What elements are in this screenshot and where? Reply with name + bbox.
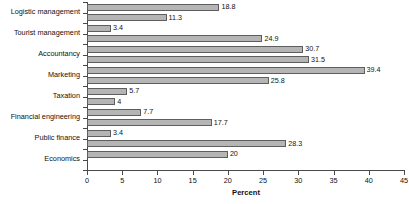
y-axis-tick bbox=[83, 13, 87, 14]
x-axis-tick-label: 20 bbox=[216, 176, 240, 185]
x-axis-tick bbox=[404, 171, 405, 175]
x-axis-tick bbox=[298, 171, 299, 175]
bar bbox=[87, 56, 309, 63]
x-axis-tick-label: 40 bbox=[357, 176, 381, 185]
y-axis-tick bbox=[83, 97, 87, 98]
bar-value-label: 5.7 bbox=[129, 87, 139, 95]
y-axis-tick bbox=[83, 128, 87, 129]
x-axis-tick bbox=[369, 171, 370, 175]
bar bbox=[87, 151, 228, 158]
bar bbox=[87, 88, 127, 95]
category-label: Financial engineering bbox=[11, 113, 80, 121]
y-axis-tick bbox=[83, 23, 87, 24]
x-axis-tick-label: 25 bbox=[251, 176, 275, 185]
bar bbox=[87, 130, 111, 137]
bar-value-label: 31.5 bbox=[311, 56, 325, 64]
x-axis-tick-label: 15 bbox=[181, 176, 205, 185]
x-axis-title: Percent bbox=[87, 188, 405, 197]
y-axis-tick bbox=[83, 55, 87, 56]
bar bbox=[87, 140, 286, 147]
x-axis-tick bbox=[122, 171, 123, 175]
bar-value-label: 20 bbox=[230, 150, 238, 158]
y-axis-tick bbox=[83, 160, 87, 161]
bar-chart: Logistic managementTourist managementAcc… bbox=[0, 0, 409, 204]
bar-value-label: 25.8 bbox=[271, 77, 285, 85]
bar bbox=[87, 4, 219, 11]
bar bbox=[87, 25, 111, 32]
x-axis-tick bbox=[263, 171, 264, 175]
y-axis-tick bbox=[83, 44, 87, 45]
bar bbox=[87, 119, 212, 126]
bar-value-label: 28.3 bbox=[288, 140, 302, 148]
bar bbox=[87, 46, 303, 53]
bar-value-label: 3.4 bbox=[113, 129, 123, 137]
category-label: Taxation bbox=[53, 92, 80, 100]
bar-value-label: 39.4 bbox=[367, 66, 381, 74]
x-axis-tick bbox=[157, 171, 158, 175]
x-axis-tick-label: 45 bbox=[392, 176, 409, 185]
category-label: Logistic management bbox=[11, 8, 80, 16]
category-axis-labels: Logistic managementTourist managementAcc… bbox=[0, 2, 84, 170]
y-axis-tick bbox=[83, 76, 87, 77]
bar bbox=[87, 77, 269, 84]
bar-value-label: 17.7 bbox=[214, 119, 228, 127]
bar-value-label: 11.3 bbox=[169, 14, 182, 22]
bar-value-label: 24.9 bbox=[264, 35, 278, 43]
x-axis-tick-label: 0 bbox=[75, 176, 99, 185]
bar bbox=[87, 14, 167, 21]
bar bbox=[87, 35, 262, 42]
category-label: Economics bbox=[44, 155, 80, 163]
bar-value-label: 7.7 bbox=[143, 108, 153, 116]
bar-value-label: 4 bbox=[117, 98, 121, 106]
y-axis-tick bbox=[83, 2, 87, 3]
y-axis-tick bbox=[83, 139, 87, 140]
x-axis-tick-label: 10 bbox=[145, 176, 169, 185]
y-axis-tick bbox=[83, 118, 87, 119]
y-axis-tick bbox=[83, 149, 87, 150]
x-axis-tick bbox=[228, 171, 229, 175]
bar bbox=[87, 98, 115, 105]
y-axis-tick bbox=[83, 86, 87, 87]
bar bbox=[87, 67, 365, 74]
y-axis-tick bbox=[83, 34, 87, 35]
y-axis-tick bbox=[83, 65, 87, 66]
category-label: Public finance bbox=[35, 134, 80, 142]
x-axis-tick bbox=[87, 171, 88, 175]
bar-value-label: 18.8 bbox=[221, 3, 235, 11]
bar-value-label: 30.7 bbox=[305, 45, 319, 53]
x-axis-tick-label: 35 bbox=[322, 176, 346, 185]
category-label: Accountancy bbox=[38, 50, 80, 58]
category-label: Marketing bbox=[48, 71, 80, 79]
bar-value-label: 3.4 bbox=[113, 24, 123, 32]
x-axis-tick bbox=[334, 171, 335, 175]
x-axis-tick-label: 5 bbox=[110, 176, 134, 185]
x-axis-tick-label: 30 bbox=[286, 176, 310, 185]
bar bbox=[87, 109, 141, 116]
x-axis-line bbox=[87, 170, 405, 171]
y-axis-tick bbox=[83, 107, 87, 108]
category-label: Tourist management bbox=[14, 29, 80, 37]
x-axis-tick bbox=[193, 171, 194, 175]
